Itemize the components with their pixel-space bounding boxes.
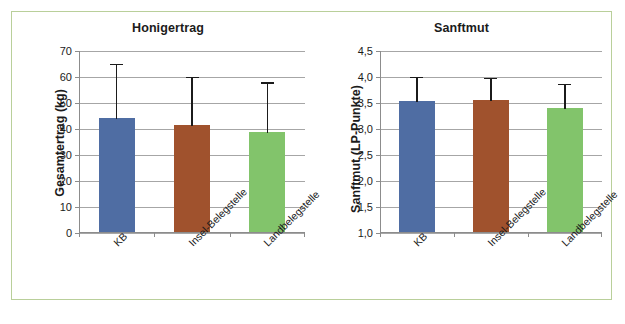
bar-3 [547,108,583,232]
y-tick-label: 2,5 [358,149,373,161]
y-tick-label: 0 [66,227,72,239]
plot-area-left: 010203040506070 [79,51,305,233]
y-tick-label: 60 [60,71,72,83]
charts-row: Honigertrag Gesamtertrag (kg) 0102030405… [12,12,611,299]
bar-2 [174,125,210,232]
chart-panel-honigertrag: Honigertrag Gesamtertrag (kg) 0102030405… [12,12,320,299]
y-tick-label: 10 [60,201,72,213]
y-tick-label: 4,0 [358,71,373,83]
chart-panel-sanftmut: Sanftmut Sanftmut (LP-Punkte) 1,01,52,02… [320,12,611,299]
x-tick-mark [528,233,529,237]
y-axis-line [380,51,381,233]
error-bar-cap-3 [558,84,571,85]
bar-3 [249,132,285,232]
y-tick-label: 70 [60,45,72,57]
x-tick-mark [454,233,455,237]
chart-title-left: Honigertrag [14,21,322,35]
y-tick-label: 4,5 [358,45,373,57]
x-tick-mark [79,233,80,237]
y-tick-label: 20 [60,175,72,187]
error-bar-stem-3 [564,84,565,109]
error-bar-stem-2 [490,78,491,101]
x-tick-mark [380,233,381,237]
gridline [79,51,305,52]
chart-title-right: Sanftmut [316,21,607,35]
error-bar-stem-1 [416,77,417,102]
y-tick-label: 3,5 [358,97,373,109]
error-bar-stem-2 [191,77,192,126]
error-bar-cap-2 [484,78,497,79]
error-bar-stem-1 [116,64,117,119]
y-tick-label: 1,0 [358,227,373,239]
figure-frame: Honigertrag Gesamtertrag (kg) 0102030405… [11,11,612,300]
error-bar-cap-1 [410,77,423,78]
x-tick-mark [601,233,602,237]
x-tick-mark [230,233,231,237]
gridline [380,51,602,52]
bar-1 [99,118,135,232]
y-tick-label: 30 [60,149,72,161]
y-tick-label: 3,0 [358,123,373,135]
y-tick-label: 50 [60,97,72,109]
bar-1 [399,101,435,232]
plot-area-right: 1,01,52,02,53,03,54,04,5 [380,51,602,233]
error-bar-cap-2 [186,77,199,78]
error-bar-cap-3 [261,82,274,83]
x-tick-mark [154,233,155,237]
y-axis-line [79,51,80,233]
y-tick-label: 2,0 [358,175,373,187]
error-bar-cap-1 [110,64,123,65]
y-tick-label: 40 [60,123,72,135]
bar-2 [473,100,509,232]
y-tick-label: 1,5 [358,201,373,213]
x-tick-mark [304,233,305,237]
error-bar-stem-3 [267,82,268,133]
